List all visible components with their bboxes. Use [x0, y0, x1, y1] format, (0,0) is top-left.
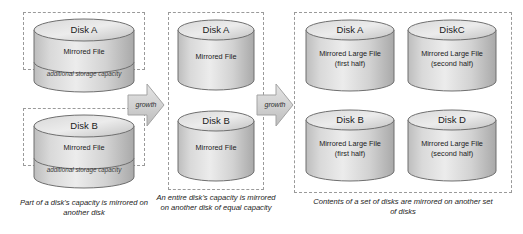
disk-b-cylinder: Disk B Mirrored File	[176, 109, 256, 185]
growth-arrow-2-shape	[256, 82, 294, 128]
panel-3-caption: Contents of a set of disks are mirrored …	[312, 197, 494, 217]
mirroring-diagram: Disk A Mirrored File additional storage …	[0, 0, 523, 234]
disk-b-cylinder: Disk B Mirrored Large File (first half)	[304, 108, 396, 186]
disk-b-shape	[304, 108, 396, 186]
disk-a-shape	[32, 17, 136, 95]
panel-full-disk-mirroring: Disk A Mirrored File Disk B Mirrored Fil…	[163, 4, 267, 230]
disk-b-shape	[32, 113, 136, 191]
disk-b-shape	[176, 109, 256, 185]
disk-a-cylinder: Disk A Mirrored File additional storage …	[32, 17, 136, 95]
growth-arrow-1-shape	[127, 82, 165, 128]
disk-d-shape	[406, 108, 498, 186]
disk-c-shape	[406, 18, 498, 96]
disk-a-cylinder: Disk A Mirrored File	[176, 18, 256, 94]
disk-b-cylinder: Disk B Mirrored File additional storage …	[32, 113, 136, 191]
disk-a-cylinder: Disk A Mirrored Large File (first half)	[304, 18, 396, 96]
disk-c-cylinder: DiskC Mirrored Large File (second half)	[406, 18, 498, 96]
panel-2-caption: An entire disk's capacity is mirrored on…	[156, 193, 276, 213]
disk-a-shape	[304, 18, 396, 96]
disk-a-shape	[176, 18, 256, 94]
panel-1-caption: Part of a disk's capacity is mirrored on…	[14, 198, 154, 218]
panel-disk-set-mirroring: Disk A Mirrored Large File (first half) …	[292, 4, 520, 230]
disk-d-cylinder: Disk D Mirrored Large File (second half)	[406, 108, 498, 186]
growth-arrow-2: growth	[256, 82, 294, 128]
growth-arrow-1: growth	[127, 82, 165, 128]
